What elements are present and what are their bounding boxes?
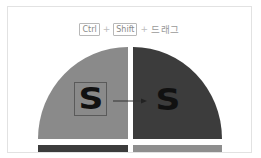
bottom-bars [38,145,222,153]
s-glyph-target-wrap: S [153,83,183,117]
shortcut-hint: Ctrl + Shift + 드래그 [8,22,251,36]
arrow-right-icon [113,98,147,104]
shift-key: Shift [113,23,137,36]
semicircle-shape: S S [38,47,222,139]
bar-right-gray [133,145,222,153]
selection-box: S [74,82,107,116]
bar-left-dark [38,145,128,153]
ctrl-key: Ctrl [79,23,99,36]
drag-label: 드래그 [151,22,180,36]
s-glyph-target: S [156,85,181,115]
plus-sign: + [140,24,148,34]
s-glyph-source: S [78,84,103,114]
illustration-panel: Ctrl + Shift + 드래그 S S [7,6,252,153]
plus-sign: + [103,24,111,34]
